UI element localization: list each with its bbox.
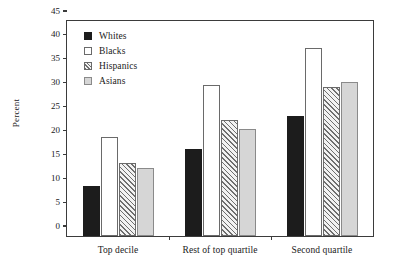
bar-asians <box>137 168 154 236</box>
bar-hispanics <box>221 120 238 236</box>
y-axis-title: Percent <box>11 73 21 153</box>
legend-item-blacks: Blacks <box>84 43 137 58</box>
y-axis-tick-label: 45 <box>51 7 63 16</box>
y-axis-tick-label: 25 <box>51 102 63 111</box>
legend-swatch-icon <box>84 77 92 85</box>
y-axis-tick-label: 10 <box>51 174 63 183</box>
y-axis-tick: 35 <box>51 54 67 64</box>
chart-legend: WhitesBlacksHispanicsAsians <box>84 28 137 88</box>
bar-group <box>185 21 256 236</box>
bar-hispanics <box>323 87 340 236</box>
bar-whites <box>83 186 100 236</box>
bar-hispanics <box>119 163 136 236</box>
legend-swatch-icon <box>84 47 92 55</box>
legend-item-asians: Asians <box>84 73 137 88</box>
legend-item-label: Blacks <box>99 46 125 56</box>
y-axis-tick: 20 <box>51 125 67 135</box>
x-axis-label: Second quartile <box>292 245 353 255</box>
y-axis-tick: 45 <box>51 6 67 16</box>
x-axis-tick <box>271 236 272 240</box>
y-axis-tick-label: 20 <box>51 126 63 135</box>
y-axis-tick-label: 30 <box>51 78 63 87</box>
bar-whites <box>185 149 202 236</box>
legend-swatch-icon <box>84 32 92 40</box>
legend-item-hispanics: Hispanics <box>84 58 137 73</box>
y-axis-tick-label: 35 <box>51 54 63 63</box>
x-axis-tick <box>169 236 170 240</box>
y-axis-tick-label: 15 <box>51 150 63 159</box>
bar-blacks <box>305 48 322 236</box>
y-axis-tick: 0 <box>56 221 68 231</box>
y-axis-tick: 25 <box>51 102 67 112</box>
bar-chart: Percent 051015202530354045 Top decileRes… <box>0 0 395 273</box>
bar-asians <box>341 82 358 236</box>
y-axis-tick: 10 <box>51 173 67 183</box>
legend-item-label: Hispanics <box>99 61 137 71</box>
legend-item-label: Whites <box>99 31 127 41</box>
x-axis-label: Top decile <box>98 245 139 255</box>
y-axis-tick-label: 5 <box>56 198 64 207</box>
legend-item-label: Asians <box>99 76 125 86</box>
bar-group <box>287 21 358 236</box>
legend-item-whites: Whites <box>84 28 137 43</box>
bar-asians <box>239 129 256 237</box>
legend-swatch-icon <box>84 62 92 70</box>
y-axis-tick-label: 40 <box>51 30 63 39</box>
bar-whites <box>287 116 304 236</box>
y-axis-tick: 5 <box>56 197 68 207</box>
bar-blacks <box>101 137 118 236</box>
y-axis-tick: 30 <box>51 78 67 88</box>
x-axis-label: Rest of top quartile <box>182 245 257 255</box>
y-axis-tick: 15 <box>51 149 67 159</box>
y-axis-tick-mark <box>63 10 67 11</box>
y-axis-tick: 40 <box>51 30 67 40</box>
bar-blacks <box>203 85 220 236</box>
y-axis-tick-label: 0 <box>56 222 64 231</box>
